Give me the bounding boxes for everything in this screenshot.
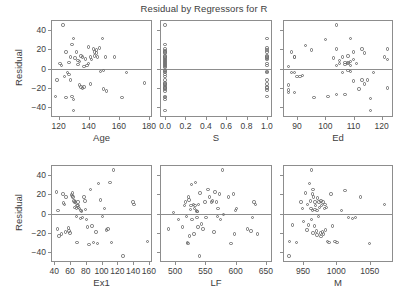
y-axis-tick [48,175,51,176]
y-axis-tick [280,49,283,50]
data-point [346,54,349,57]
y-axis-tick [280,233,283,234]
y-axis-tick [48,69,51,70]
data-point [335,47,338,50]
x-axis-title: LF [160,277,272,288]
data-point [190,218,193,221]
data-point [360,47,363,50]
y-axis-tick [48,214,51,215]
x-axis-tick-label: 0.4 [200,121,212,131]
data-point [75,50,78,53]
data-point [106,227,109,230]
data-point [192,232,195,235]
y-axis-tick [157,194,160,195]
x-axis-tick-label: 1.0 [261,121,273,131]
data-point [293,55,296,58]
data-point [369,109,372,112]
data-point [265,37,268,40]
data-point [206,188,209,191]
data-point [163,109,166,112]
x-axis-tick-label: 180 [142,121,156,131]
x-axis-tick [297,117,298,120]
data-point [329,192,332,195]
data-point [95,51,98,54]
data-point [256,232,259,235]
data-point [299,200,302,203]
y-axis-tick [48,252,51,253]
residual-by-regressors-figure: Residual by Regressors for R Residual Re… [0,0,408,301]
data-point [69,55,72,58]
x-axis-tick [236,262,237,265]
x-axis-tick [59,117,60,120]
data-point [213,190,216,193]
y-axis-tick-label: −40 [32,247,46,257]
x-axis-tick-label: 80 [81,266,90,276]
data-point [82,195,85,198]
data-point [108,181,111,184]
y-axis-tick [157,233,160,234]
data-point [188,234,191,237]
y-axis-tick [48,49,51,50]
panel-m: 95010001050M [283,165,393,262]
data-point [215,200,218,203]
x-axis-tick-label: 1000 [327,266,346,276]
data-point [187,198,190,201]
data-point [265,50,268,53]
y-axis-tick-label: 20 [37,44,46,54]
data-point [201,227,204,230]
data-point [125,71,128,74]
x-axis-tick-label: 0.0 [159,121,171,131]
data-point [212,230,215,233]
data-point [311,188,314,191]
data-point [372,71,375,74]
y-axis-tick [48,233,51,234]
y-axis-tick [48,107,51,108]
data-point [312,96,315,99]
y-axis-tick [157,175,160,176]
y-axis-tick [48,30,51,31]
panel-ex1: 40200−20−40406080100120140160Ex1 [51,165,152,262]
x-axis-tick-label: 120 [375,121,389,131]
data-point [64,50,67,53]
x-axis-tick [165,117,166,120]
data-point [163,75,166,78]
y-axis-tick [157,214,160,215]
y-axis-tick-label: −40 [32,102,46,112]
data-point [196,225,199,228]
data-point [249,229,252,232]
data-point [143,81,146,84]
data-point [98,46,101,49]
x-axis-tick [370,262,371,265]
data-point [324,38,327,41]
x-axis-title: M [283,277,393,288]
data-point [232,192,235,195]
data-point [360,78,363,81]
data-point [341,55,344,58]
x-axis-tick-label: 950 [296,266,310,276]
x-axis-tick [206,117,207,120]
y-axis-tick [157,69,160,70]
x-axis-tick-label: 120 [110,266,124,276]
data-point [386,86,389,89]
data-point [307,223,310,226]
data-point [87,243,90,246]
x-axis-tick-label: 140 [126,266,140,276]
data-point [167,227,170,230]
data-point [291,223,294,226]
x-axis-tick [303,262,304,265]
data-point [163,43,166,46]
data-point [287,254,290,257]
data-point [94,230,97,233]
data-point [221,168,224,171]
x-axis-tick [266,262,267,265]
x-axis-tick-label: 500 [168,266,182,276]
x-axis-tick [336,262,337,265]
data-point [208,195,211,198]
data-point [121,254,124,257]
x-axis-tick [149,262,150,265]
x-axis-tick [70,262,71,265]
x-axis-tick-label: 0.2 [180,121,192,131]
x-axis-tick-label: 0.8 [241,121,253,131]
x-axis-tick [185,117,186,120]
y-axis-title-row2: Residual [13,180,24,246]
